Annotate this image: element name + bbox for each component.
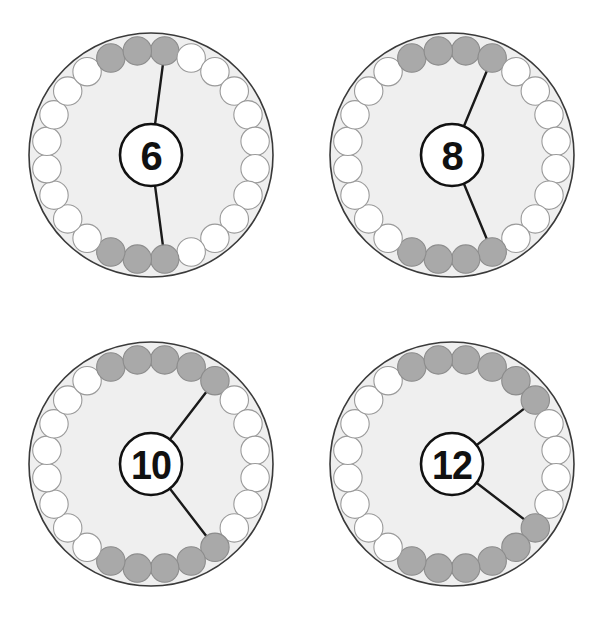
bead-filled[interactable] xyxy=(123,553,151,581)
bead-empty[interactable] xyxy=(542,463,570,491)
bead-empty[interactable] xyxy=(535,409,563,437)
wheel-cell-6: 6 xyxy=(0,0,301,309)
bead-empty[interactable] xyxy=(233,409,261,437)
bead-empty[interactable] xyxy=(32,436,60,464)
bead-filled[interactable] xyxy=(452,36,480,64)
bead-empty[interactable] xyxy=(32,154,60,182)
wheel-6[interactable]: 6 xyxy=(16,20,286,290)
bead-filled[interactable] xyxy=(452,553,480,581)
wheel-12[interactable]: 12 xyxy=(317,329,587,599)
bead-filled[interactable] xyxy=(176,546,204,574)
bead-empty[interactable] xyxy=(32,463,60,491)
bead-filled[interactable] xyxy=(96,43,124,71)
center-number: 12 xyxy=(432,442,472,486)
bead-filled[interactable] xyxy=(96,352,124,380)
wheel-cell-12: 12 xyxy=(301,309,603,618)
bead-empty[interactable] xyxy=(240,127,268,155)
bead-empty[interactable] xyxy=(341,180,369,208)
bead-empty[interactable] xyxy=(535,100,563,128)
bead-empty[interactable] xyxy=(542,154,570,182)
bead-filled[interactable] xyxy=(424,244,452,272)
center-number: 10 xyxy=(131,442,171,486)
bead-empty[interactable] xyxy=(240,436,268,464)
bead-empty[interactable] xyxy=(542,127,570,155)
center-number: 8 xyxy=(441,133,463,177)
bead-empty[interactable] xyxy=(32,127,60,155)
bead-filled[interactable] xyxy=(150,553,178,581)
bead-filled[interactable] xyxy=(150,345,178,373)
bead-filled[interactable] xyxy=(452,244,480,272)
bead-filled[interactable] xyxy=(123,345,151,373)
bead-empty[interactable] xyxy=(542,436,570,464)
bead-filled[interactable] xyxy=(452,345,480,373)
bead-empty[interactable] xyxy=(39,180,67,208)
bead-empty[interactable] xyxy=(240,154,268,182)
bead-empty[interactable] xyxy=(240,463,268,491)
bead-filled[interactable] xyxy=(478,237,506,265)
bead-filled[interactable] xyxy=(398,43,426,71)
bead-empty[interactable] xyxy=(334,127,362,155)
wheel-10[interactable]: 10 xyxy=(16,329,286,599)
wheel-cell-8: 8 xyxy=(301,0,603,309)
bead-filled[interactable] xyxy=(478,546,506,574)
center-number: 6 xyxy=(140,133,161,177)
bead-filled[interactable] xyxy=(123,244,151,272)
bead-filled[interactable] xyxy=(150,244,178,272)
wheel-grid: 681012 xyxy=(0,0,603,618)
bead-filled[interactable] xyxy=(398,352,426,380)
bead-filled[interactable] xyxy=(150,36,178,64)
bead-empty[interactable] xyxy=(233,100,261,128)
bead-empty[interactable] xyxy=(341,489,369,517)
bead-filled[interactable] xyxy=(424,36,452,64)
bead-empty[interactable] xyxy=(334,463,362,491)
bead-empty[interactable] xyxy=(176,237,204,265)
bead-filled[interactable] xyxy=(424,553,452,581)
bead-empty[interactable] xyxy=(39,489,67,517)
wheel-8[interactable]: 8 xyxy=(317,20,587,290)
wheel-cell-10: 10 xyxy=(0,309,301,618)
bead-wheels-figure: 681012 xyxy=(0,0,603,618)
bead-filled[interactable] xyxy=(123,36,151,64)
bead-filled[interactable] xyxy=(424,345,452,373)
bead-empty[interactable] xyxy=(334,436,362,464)
bead-empty[interactable] xyxy=(334,154,362,182)
